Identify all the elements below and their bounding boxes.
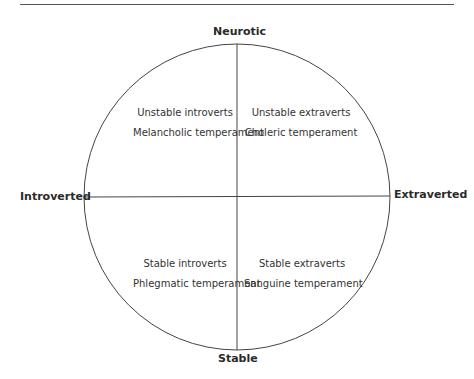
horizontal-axis [84,196,390,197]
axis-label-extraverted: Extraverted [394,188,467,201]
quadrant-temperament: Phlegmatic temperament [133,274,237,294]
axis-label-neurotic: Neurotic [213,25,266,38]
quadrant-temperament: Choleric temperament [240,123,362,143]
quadrant-stable-introverts: Stable introverts Phlegmatic temperament [133,254,237,294]
quadrant-unstable-extraverts: Unstable extraverts Choleric temperament [240,103,362,143]
quadrant-title: Unstable extraverts [240,103,362,123]
quadrant-stable-extraverts: Stable extraverts Sanguine temperament [244,254,360,294]
quadrant-temperament: Melancholic temperament [133,123,237,143]
quadrant-temperament: Sanguine temperament [244,274,360,294]
quadrant-title: Unstable introverts [133,103,237,123]
axis-label-introverted: Introverted [20,190,91,203]
quadrant-unstable-introverts: Unstable introverts Melancholic temperam… [133,103,237,143]
quadrant-title: Stable introverts [133,254,237,274]
quadrant-title: Stable extraverts [244,254,360,274]
axis-label-stable: Stable [218,352,258,365]
